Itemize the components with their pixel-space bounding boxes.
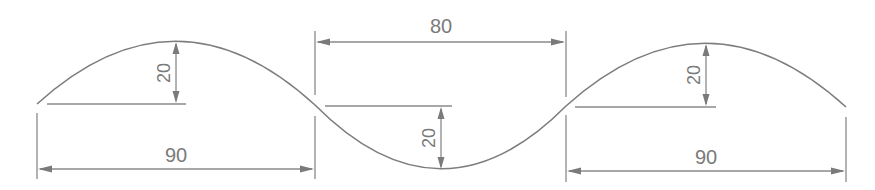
- middle-depth-dimension: 20: [419, 107, 445, 169]
- right-height-label: 20: [684, 65, 704, 85]
- middle-depth-label: 20: [419, 128, 439, 148]
- right-span-label: 90: [695, 146, 717, 168]
- middle-span-dimension: 80: [315, 15, 566, 97]
- wave-profile-diagram: 20 90 80 20: [0, 0, 875, 190]
- left-span-label: 90: [165, 144, 187, 166]
- left-span-dimension: 90: [37, 113, 315, 179]
- diagram-svg: 20 90 80 20: [0, 0, 875, 190]
- left-height-label: 20: [154, 63, 174, 83]
- right-height-dimension: 20: [684, 44, 710, 106]
- right-span-dimension: 90: [566, 115, 846, 182]
- left-height-dimension: 20: [154, 42, 180, 103]
- middle-span-label: 80: [430, 15, 452, 37]
